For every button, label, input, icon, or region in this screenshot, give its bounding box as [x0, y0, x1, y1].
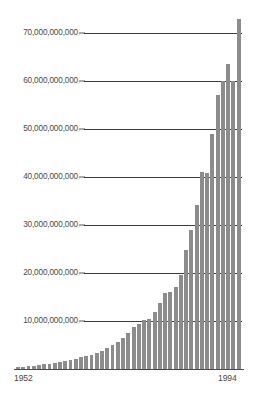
bar — [216, 95, 220, 369]
bar — [137, 324, 141, 369]
bar — [158, 303, 162, 369]
bar — [90, 355, 94, 369]
bar — [142, 320, 146, 369]
bar — [153, 312, 157, 369]
bar — [79, 357, 83, 369]
bar — [105, 348, 109, 369]
bar — [163, 293, 167, 369]
bar — [58, 362, 62, 369]
bar — [121, 338, 125, 369]
bar — [132, 327, 136, 369]
bar — [231, 81, 235, 369]
x-axis-tick-end: 1994 — [218, 373, 237, 383]
bar — [189, 230, 193, 369]
bar — [116, 342, 120, 369]
bar — [179, 275, 183, 369]
bar — [63, 361, 67, 369]
x-axis-tick-start: 1952 — [14, 373, 33, 383]
plot-area — [16, 10, 242, 369]
bar — [168, 292, 172, 369]
bar — [226, 64, 230, 369]
bar — [184, 250, 188, 369]
bar-chart: 70,000,000,00060,000,000,00050,000,000,0… — [0, 0, 255, 403]
bar — [174, 287, 178, 369]
bar — [205, 173, 209, 369]
bar — [84, 356, 88, 369]
bar — [200, 172, 204, 369]
bar — [147, 319, 151, 369]
bar — [126, 333, 130, 369]
bar — [95, 353, 99, 369]
bar — [69, 360, 73, 369]
bar — [237, 19, 241, 369]
bar — [100, 351, 104, 369]
bar — [221, 81, 225, 369]
bar — [195, 205, 199, 369]
bar — [74, 359, 78, 369]
x-axis-line — [14, 369, 244, 370]
bar — [111, 345, 115, 369]
bar — [210, 134, 214, 369]
